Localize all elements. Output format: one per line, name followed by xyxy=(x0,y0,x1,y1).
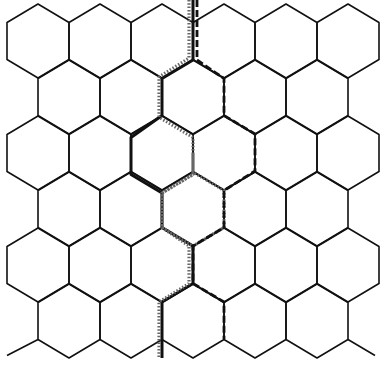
hexagon-cell xyxy=(69,228,131,302)
solid-path xyxy=(131,0,193,358)
hexagon-cell xyxy=(193,4,255,78)
hexagon-cell xyxy=(38,60,100,134)
hexagon-cell xyxy=(317,228,379,302)
hexagon-cell xyxy=(255,228,317,302)
hexagon-cell xyxy=(286,284,348,358)
hexagon-cell xyxy=(7,4,69,78)
hexagon-cell xyxy=(7,228,69,302)
hexagon-cell xyxy=(317,4,379,78)
hexagon-cell xyxy=(224,284,286,358)
grid-edge-line xyxy=(348,340,375,356)
hexagon-cell xyxy=(38,172,100,246)
hexagon-cell xyxy=(286,60,348,134)
hexagon-cell xyxy=(224,172,286,246)
hexagon-cell xyxy=(69,4,131,78)
hexagon-cell xyxy=(38,284,100,358)
hexagon-cell xyxy=(317,116,379,190)
grid-edge-line xyxy=(7,340,38,356)
hexagon-cell xyxy=(100,172,162,246)
hexagon-cell xyxy=(69,116,131,190)
hexagon-cell xyxy=(255,116,317,190)
hexagon-cell xyxy=(255,4,317,78)
hexagon-cell xyxy=(100,284,162,358)
hexagon-cell xyxy=(224,60,286,134)
hex-grid-diagram xyxy=(0,0,382,368)
hexagon-cell xyxy=(286,172,348,246)
hexagon-cell xyxy=(7,116,69,190)
highlighted-paths xyxy=(131,0,255,358)
hex-grid-svg xyxy=(0,0,382,368)
